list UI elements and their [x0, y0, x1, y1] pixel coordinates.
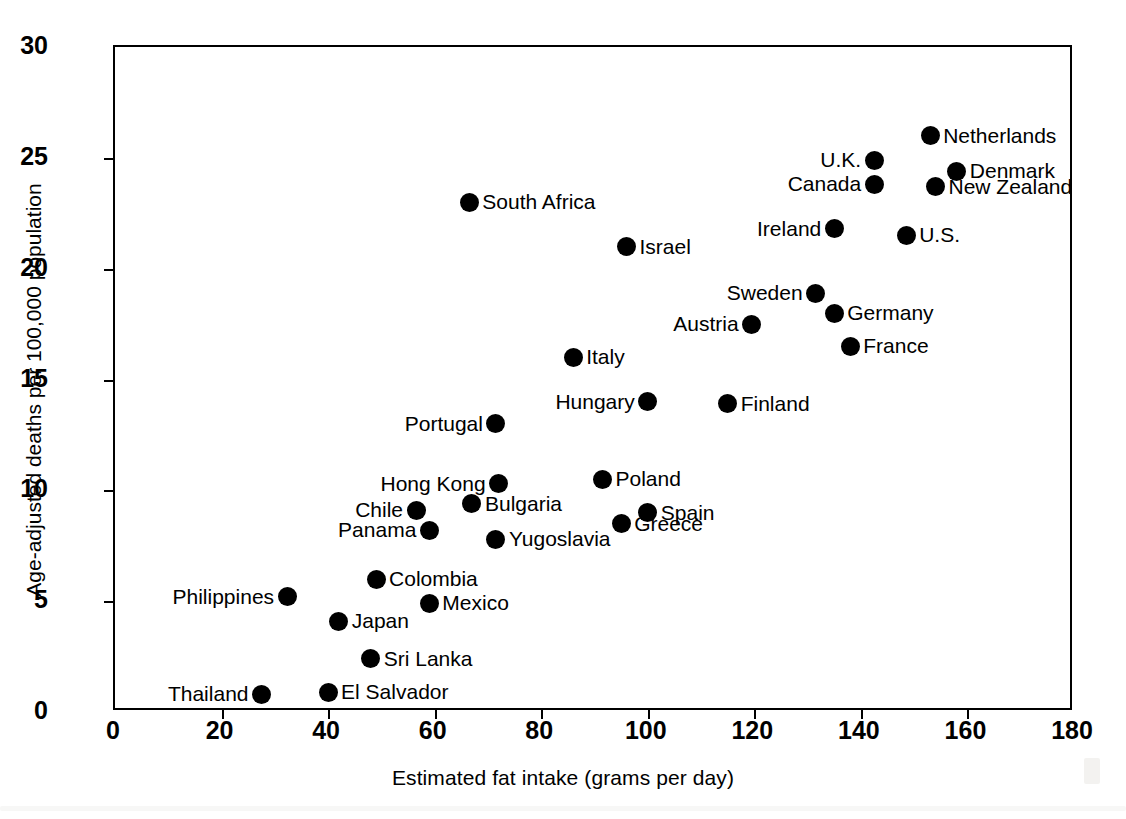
- y-axis-tick: [104, 269, 115, 271]
- data-point-label: New Zealand: [948, 175, 1072, 199]
- data-point: [897, 226, 916, 245]
- data-point: [718, 394, 737, 413]
- data-point-label: Sri Lanka: [384, 647, 473, 671]
- data-point-label: Sweden: [727, 281, 803, 305]
- data-point-label: France: [863, 334, 928, 358]
- data-point: [420, 594, 439, 613]
- y-axis-tick-label: 20: [0, 252, 48, 281]
- data-point: [921, 126, 940, 145]
- data-point-label: Finland: [741, 392, 810, 416]
- scan-artifact: [1084, 758, 1100, 784]
- data-point-label: Hungary: [555, 390, 634, 414]
- data-point-label: Ireland: [757, 217, 821, 241]
- data-point: [329, 612, 348, 631]
- data-point: [638, 392, 657, 411]
- data-point-label: Bulgaria: [485, 492, 562, 516]
- x-axis-tick-label: 20: [206, 716, 234, 745]
- y-axis-tick-label: 30: [0, 31, 48, 60]
- data-point-label: Portugal: [405, 412, 483, 436]
- data-point-label: Hong Kong: [381, 472, 486, 496]
- data-point: [593, 470, 612, 489]
- x-axis-tick-label: 60: [419, 716, 447, 745]
- data-point: [460, 193, 479, 212]
- data-point-label: Mexico: [442, 591, 509, 615]
- data-point: [742, 315, 761, 334]
- data-point-label: Netherlands: [943, 124, 1056, 148]
- y-axis-tick: [104, 380, 115, 382]
- y-axis-tick-label: 10: [0, 474, 48, 503]
- data-point: [825, 304, 844, 323]
- x-axis-tick-label: 0: [106, 716, 120, 745]
- data-point-label: U.K.: [820, 148, 861, 172]
- data-point-label: Austria: [673, 312, 738, 336]
- data-point-label: Thailand: [168, 682, 249, 706]
- data-point-label: Philippines: [173, 585, 275, 609]
- data-point: [319, 683, 338, 702]
- y-axis-tick-label: 0: [0, 696, 48, 725]
- data-point-label: South Africa: [482, 190, 595, 214]
- data-point: [825, 219, 844, 238]
- scatter-chart-figure: Age-adjusted deaths per 100,000 populati…: [0, 0, 1126, 819]
- data-point-label: Japan: [352, 609, 409, 633]
- data-point: [564, 348, 583, 367]
- y-axis-tick: [104, 490, 115, 492]
- y-axis-tick-label: 15: [0, 363, 48, 392]
- data-point-label: Greece: [634, 512, 703, 536]
- x-axis-tick-label: 40: [312, 716, 340, 745]
- y-axis-tick-label: 25: [0, 141, 48, 170]
- data-point-label: U.S.: [919, 223, 960, 247]
- data-point-label: Germany: [847, 301, 933, 325]
- x-axis-tick-label: 180: [1051, 716, 1093, 745]
- data-point: [486, 530, 505, 549]
- data-point: [252, 685, 271, 704]
- y-axis-tick: [104, 158, 115, 160]
- data-point: [806, 284, 825, 303]
- y-axis-tick-label: 5: [0, 585, 48, 614]
- data-point-label: Panama: [338, 518, 416, 542]
- data-point: [486, 414, 505, 433]
- data-point-label: Yugoslavia: [509, 527, 611, 551]
- x-axis-tick-label: 140: [838, 716, 880, 745]
- data-point: [367, 570, 386, 589]
- data-point: [407, 501, 426, 520]
- data-point: [612, 514, 631, 533]
- data-point: [462, 494, 481, 513]
- data-point-label: Canada: [788, 172, 862, 196]
- y-axis-tick: [104, 601, 115, 603]
- x-axis-tick-label: 120: [731, 716, 773, 745]
- data-point-label: Italy: [586, 345, 625, 369]
- data-point: [865, 175, 884, 194]
- data-point: [278, 587, 297, 606]
- data-point: [617, 237, 636, 256]
- data-point-label: El Salvador: [341, 680, 448, 704]
- data-point: [865, 151, 884, 170]
- data-point: [841, 337, 860, 356]
- scan-artifact: [0, 806, 1126, 811]
- x-axis-tick-label: 100: [625, 716, 667, 745]
- data-point-label: Israel: [639, 235, 690, 259]
- data-point-label: Colombia: [389, 567, 478, 591]
- x-axis-title: Estimated fat intake (grams per day): [0, 766, 1126, 790]
- data-point: [489, 474, 508, 493]
- x-axis-tick-label: 160: [945, 716, 987, 745]
- data-point: [361, 649, 380, 668]
- data-point: [420, 521, 439, 540]
- x-axis-tick-label: 80: [525, 716, 553, 745]
- data-point-label: Poland: [615, 467, 680, 491]
- plot-area: NetherlandsU.K.DenmarkCanadaNew ZealandS…: [113, 45, 1072, 710]
- data-point: [926, 177, 945, 196]
